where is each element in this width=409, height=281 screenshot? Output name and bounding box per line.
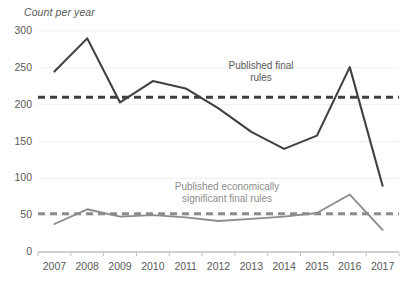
annotation-line: significant final rules (142, 193, 312, 205)
y-tick-label-150: 150 (2, 135, 32, 147)
upper-series-annotation: Published finalrules (196, 60, 326, 83)
y-tick-label-100: 100 (2, 171, 32, 183)
y-tick-label-200: 200 (2, 98, 32, 110)
x-tick-label-2013: 2013 (234, 260, 268, 272)
y-tick-label-50: 50 (2, 208, 32, 220)
lower-series-annotation: Published economicallysignificant final … (142, 181, 312, 204)
x-tick-label-2012: 2012 (202, 260, 236, 272)
axis-group (38, 252, 399, 256)
x-tick-label-2010: 2010 (136, 260, 170, 272)
x-tick-label-2011: 2011 (169, 260, 203, 272)
y-tick-label-0: 0 (2, 245, 32, 257)
x-tick-label-2008: 2008 (70, 260, 104, 272)
x-tick-label-2017: 2017 (366, 260, 400, 272)
annotation-line: rules (196, 72, 326, 84)
chart-plot-area (0, 0, 409, 281)
x-tick-label-2016: 2016 (333, 260, 367, 272)
chart-container: Count per year Published finalrules Publ… (0, 0, 409, 281)
x-tick-label-2009: 2009 (103, 260, 137, 272)
annotation-line: Published economically (142, 181, 312, 193)
x-tick-label-2015: 2015 (300, 260, 334, 272)
x-tick-label-2007: 2007 (37, 260, 71, 272)
y-tick-label-250: 250 (2, 61, 32, 73)
annotation-line: Published final (196, 60, 326, 72)
y-tick-label-300: 300 (2, 24, 32, 36)
x-tick-label-2014: 2014 (267, 260, 301, 272)
